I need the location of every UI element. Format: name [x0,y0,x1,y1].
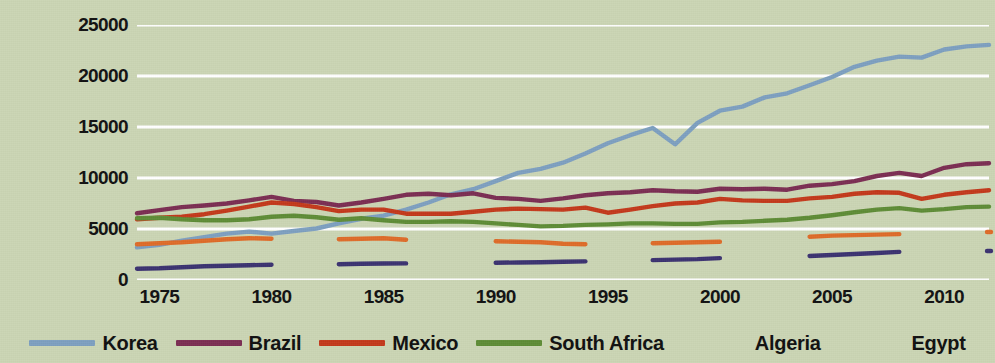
series-lines [137,25,989,280]
legend-label: Korea [102,332,157,355]
x-tick-label: 2010 [924,286,964,308]
y-tick-label: 5000 [44,218,128,240]
legend-swatch-icon [476,340,542,346]
legend-swatch-icon [29,340,95,346]
legend-item-south-africa[interactable]: South Africa [476,332,682,355]
series-segment [810,252,900,256]
legend-item-egypt[interactable]: Egypt [839,332,966,355]
y-tick-label: 20000 [44,65,128,87]
x-tick-label: 1990 [476,286,516,308]
y-tick-label: 10000 [44,167,128,189]
legend-label: Egypt [912,332,966,355]
legend-item-mexico[interactable]: Mexico [319,332,476,355]
x-tick-label: 2005 [812,286,852,308]
series-segment [137,190,989,219]
series-segment [496,261,586,262]
series-segment [339,238,406,240]
series-segment [653,258,720,260]
legend-swatch-icon [682,340,748,346]
chart-title-cropped [0,0,995,2]
x-tick-label: 2000 [700,286,740,308]
legend-label: South Africa [549,332,664,355]
y-tick-label: 25000 [44,14,128,36]
series-mexico [137,190,989,219]
series-segment [653,242,720,244]
legend-item-korea[interactable]: Korea [29,332,175,355]
series-segment [339,263,406,264]
legend-item-algeria[interactable]: Algeria [682,332,839,355]
legend-label: Algeria [755,332,821,355]
series-segment [137,265,272,269]
x-tick-label: 1985 [364,286,404,308]
x-tick-label: 1995 [588,286,628,308]
series-egypt [137,251,991,269]
legend-swatch-icon [839,340,905,346]
x-axis-ticks: 19751980198519901995200020052010 [0,286,995,314]
plot-area [137,25,989,280]
series-segment [810,234,900,237]
series-segment [496,241,586,244]
chart-legend: KoreaBrazilMexicoSouth AfricaAlgeriaEgyp… [0,326,995,360]
legend-label: Mexico [392,332,458,355]
x-tick-label: 1975 [139,286,179,308]
legend-swatch-icon [319,340,385,346]
legend-item-brazil[interactable]: Brazil [176,332,320,355]
y-tick-label: 15000 [44,116,128,138]
x-tick-label: 1980 [252,286,292,308]
legend-swatch-icon [176,340,242,346]
chart-figure: GDP per capita (constant 2011 US$) 05000… [0,0,995,363]
series-segment [137,238,272,244]
legend-label: Brazil [249,332,302,355]
